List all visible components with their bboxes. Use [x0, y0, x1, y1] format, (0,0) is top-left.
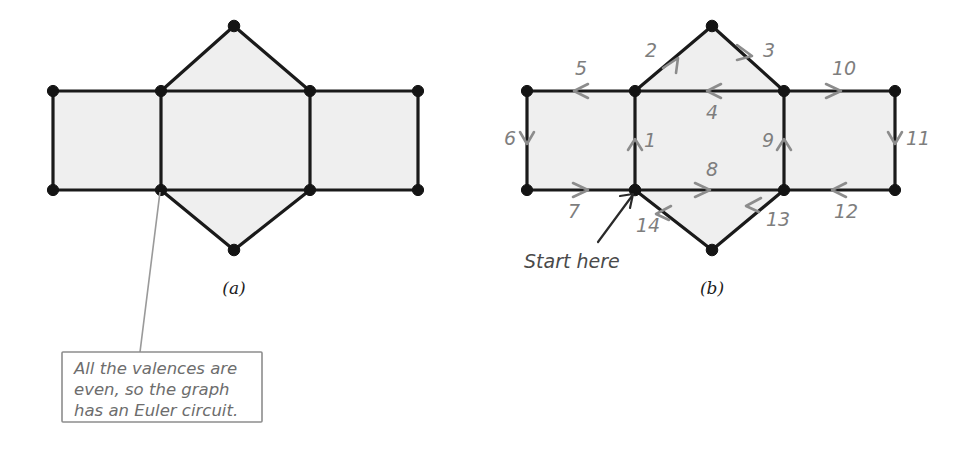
face-right-square-b	[784, 91, 895, 190]
vertex-a-R2	[412, 184, 423, 195]
edge-number-8: 8	[706, 158, 718, 180]
callout-line-3: has an Euler circuit.	[74, 401, 238, 420]
edge-number-3: 3	[763, 39, 775, 61]
vertex-b-top-apex	[706, 20, 718, 32]
vertex-a-L1	[47, 85, 58, 96]
vertex-a-N2	[304, 184, 315, 195]
panel-b: 1 2 3 4 5 6 7 8 9 10 11 12 13 14	[504, 20, 930, 298]
vertex-a-top-apex	[228, 20, 240, 32]
face-left-square-b	[527, 91, 635, 190]
vertex-b-R2	[889, 184, 900, 195]
vertex-b-R1	[889, 85, 900, 96]
callout-line-2: even, so the graph	[74, 380, 230, 399]
edge-number-2: 2	[645, 39, 657, 61]
vertex-a-M2	[155, 184, 166, 195]
figure-canvas: (a) All the valences are even, so the gr…	[0, 0, 960, 466]
vertex-b-L2	[521, 184, 532, 195]
edge-number-11: 11	[906, 127, 930, 149]
vertex-a-N1	[304, 85, 315, 96]
face-left-square-a	[53, 91, 161, 190]
vertex-b-L1	[521, 85, 532, 96]
panel-a-faces	[53, 26, 418, 250]
edge-number-13: 13	[766, 208, 790, 230]
edge-number-10: 10	[832, 57, 856, 79]
start-here-label: Start here	[524, 250, 620, 272]
vertex-b-N2	[778, 184, 789, 195]
vertex-b-N1	[778, 85, 789, 96]
start-here-arrow-icon	[598, 196, 632, 242]
panel-a: (a)	[47, 20, 423, 298]
caption-a: (a)	[222, 278, 245, 298]
edge-number-7: 7	[568, 200, 580, 222]
edge-number-4: 4	[706, 101, 718, 123]
vertex-a-R1	[412, 85, 423, 96]
face-hexagon-a	[161, 26, 310, 250]
vertex-a-bottom-apex	[228, 244, 240, 256]
vertex-a-M1	[155, 85, 166, 96]
edge-number-9: 9	[762, 129, 774, 151]
edge-number-12: 12	[834, 200, 858, 222]
vertex-a-L2	[47, 184, 58, 195]
edge-number-1: 1	[644, 129, 656, 151]
caption-b: (b)	[700, 278, 724, 298]
edge-number-14: 14	[636, 214, 660, 236]
vertex-b-M1	[629, 85, 640, 96]
face-right-square-a	[310, 91, 418, 190]
vertex-b-bottom-apex	[706, 244, 718, 256]
edge-number-6: 6	[504, 127, 516, 149]
callout-leader-line	[140, 192, 160, 352]
callout-line-1: All the valences are	[73, 359, 237, 378]
edge-number-5: 5	[575, 57, 587, 79]
